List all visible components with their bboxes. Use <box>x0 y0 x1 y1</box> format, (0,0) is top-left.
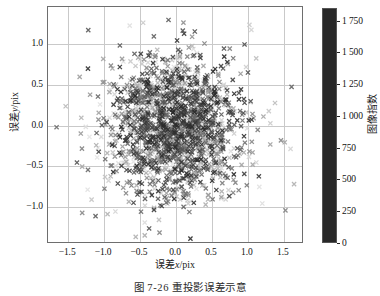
x-tick-label: 0.0 <box>169 247 181 257</box>
x-axis-label: 误差x/pix <box>47 259 303 271</box>
y-tick-label: −1.0 <box>13 201 43 211</box>
x-tick-label: 0.5 <box>205 247 217 257</box>
y-tick-label: −0.5 <box>13 160 43 170</box>
colorbar-gradient <box>322 8 337 243</box>
colorbar-tick-mark <box>337 21 340 22</box>
colorbar-tick-label: 250 <box>342 206 356 216</box>
y-axis-label-cn: 误差 <box>9 112 20 132</box>
plot-area <box>47 6 303 243</box>
colorbar-tick-mark <box>337 84 340 85</box>
colorbar-tick-mark <box>337 148 340 149</box>
figure-caption: 图 7-26 重投影误差示意 <box>0 281 380 294</box>
y-axis-label: 误差y/pix <box>9 64 21 160</box>
x-tick-label: −1.0 <box>95 247 112 257</box>
x-tick-label: 1.5 <box>277 247 289 257</box>
colorbar-tick-label: 0 <box>342 238 347 248</box>
y-tick-label: 1.0 <box>13 38 43 48</box>
colorbar-tick-label: 500 <box>342 174 356 184</box>
figure-reprojection-error: −1.5−1.0−0.50.00.51.01.5 −1.0−0.50.00.51… <box>0 0 380 296</box>
colorbar-tick-label: 1 500 <box>342 47 363 57</box>
colorbar-tick-label: 750 <box>342 143 356 153</box>
colorbar <box>322 8 337 243</box>
colorbar-tick-mark <box>337 243 340 244</box>
colorbar-tick-label: 1 000 <box>342 111 363 121</box>
x-tick-label: −0.5 <box>131 247 148 257</box>
colorbar-tick-mark <box>337 52 340 53</box>
x-tick-label: −1.5 <box>59 247 76 257</box>
x-tick-label: 1.0 <box>241 247 253 257</box>
colorbar-tick-mark <box>337 116 340 117</box>
y-axis-label-var: y <box>9 108 20 112</box>
y-axis-label-unit: /pix <box>9 92 20 108</box>
colorbar-tick-label: 1 250 <box>342 79 363 89</box>
colorbar-tick-mark <box>337 179 340 180</box>
colorbar-label: 图像指数 <box>367 66 379 162</box>
colorbar-tick-label: 1 750 <box>342 16 363 26</box>
x-axis-label-cn: 误差 <box>155 259 175 270</box>
scatter-canvas <box>48 7 303 243</box>
x-axis-label-unit: /pix <box>179 259 195 270</box>
colorbar-tick-mark <box>337 211 340 212</box>
